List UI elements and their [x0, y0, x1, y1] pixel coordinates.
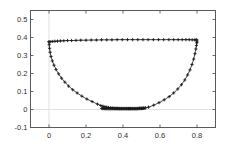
- series-dense-cluster-bottom: [100, 107, 146, 111]
- x-tick-label: 0.8: [182, 132, 212, 140]
- chart-figure: -0.100.10.20.30.40.500.20.40.60.8: [0, 0, 230, 153]
- y-tick-label: 0.1: [17, 88, 27, 96]
- y-tick-label: -0.1: [15, 124, 28, 132]
- y-tick-label: 0.3: [17, 52, 27, 60]
- y-tick-label: 0.2: [17, 70, 27, 78]
- x-tick-label: 0.2: [71, 132, 101, 140]
- x-tick-label: 0.6: [145, 132, 175, 140]
- series-line: [49, 42, 197, 109]
- y-tick-label: 0: [23, 106, 27, 114]
- y-tick-label: 0.4: [17, 34, 27, 42]
- series-top-chord: [47, 38, 198, 43]
- y-tick-label: 0.5: [17, 16, 27, 24]
- series-bottom-arc: [47, 40, 198, 110]
- x-tick-label: 0.4: [108, 132, 138, 140]
- x-tick-label: 0: [34, 132, 64, 140]
